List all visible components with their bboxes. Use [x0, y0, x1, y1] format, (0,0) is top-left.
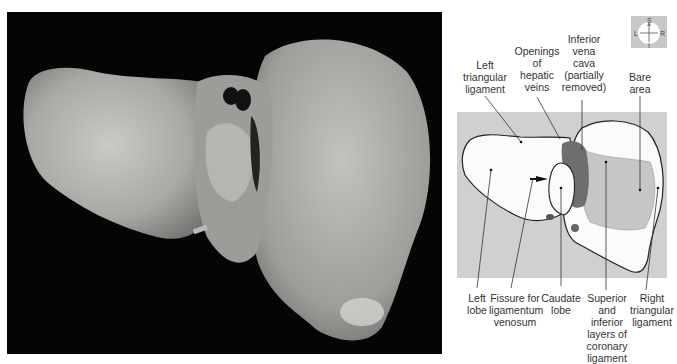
label-inferior-vena-cava: Inferior vena cava (partially removed) — [558, 33, 610, 93]
label-caudate-lobe: Caudate lobe — [538, 292, 584, 316]
label-bare-area: Bare area — [622, 71, 658, 95]
label-fissure-for-ligamentum-venosum: Fissure for ligamentum venosum — [489, 292, 541, 328]
label-left-triangular-ligament: Left triangular ligament — [460, 59, 510, 95]
label-right-triangular-ligament: Right triangular ligament — [628, 292, 676, 328]
label-openings-of-hepatic-veins: Openings of hepatic veins — [512, 45, 562, 93]
label-coronary-ligament-layers: Superior and inferior layers of coronary… — [582, 292, 632, 364]
